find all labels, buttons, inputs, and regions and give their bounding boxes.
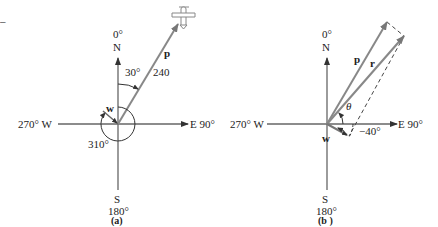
panel-a: 0° N S 180° 270° W E 90° p 240 30° w 310…	[18, 7, 215, 227]
angle-theta-label: θ	[346, 100, 352, 112]
south-label: S	[114, 193, 120, 205]
corner-mark: –	[0, 15, 6, 27]
vector-w-arrow	[327, 124, 347, 135]
caption-b: (b )	[318, 215, 333, 227]
vector-r-arrow	[327, 36, 404, 124]
angle-30-arc	[118, 84, 138, 89]
angle-minus40-label: −40°	[359, 125, 381, 137]
airplane-icon	[172, 7, 195, 29]
caption-a: (a)	[111, 215, 123, 227]
east-label: E 90°	[398, 118, 423, 130]
angle-theta-arc	[339, 113, 343, 124]
west-label: 270° W	[230, 118, 264, 130]
magnitude-p-label: 240	[153, 66, 170, 78]
angle-minus40-arc	[349, 124, 353, 137]
north-label: N	[113, 41, 121, 53]
panel-b: 0° N S 180° 270° W E 90° p r θ −40° w (b…	[230, 22, 423, 227]
north-label: N	[322, 41, 330, 53]
vector-w-label: w	[322, 132, 330, 144]
angle-310-label: 310°	[88, 138, 109, 150]
north-degree-label: 0°	[113, 28, 123, 40]
vector-w-label: w	[106, 102, 114, 114]
angle-30-label: 30°	[125, 66, 140, 78]
south-label: S	[322, 193, 328, 205]
vector-r-label: r	[370, 57, 375, 69]
east-label: E 90°	[190, 118, 215, 130]
west-label: 270° W	[18, 118, 52, 130]
vector-p-arrow	[327, 22, 387, 124]
parallelogram-right-edge	[349, 36, 404, 136]
parallelogram-top-edge	[387, 22, 404, 36]
vector-p-label: p	[164, 47, 170, 59]
vector-p-label: p	[354, 53, 360, 65]
north-degree-label: 0°	[322, 28, 332, 40]
vector-diagram: – 0° N S 180° 270° W E 90° p 240 30° w 3	[0, 0, 438, 227]
